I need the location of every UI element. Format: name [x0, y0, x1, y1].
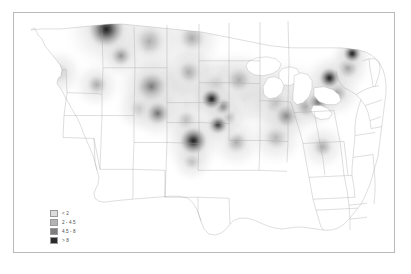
density-hotspot-core	[178, 126, 208, 156]
legend-swatch-class-4	[50, 237, 58, 244]
density-hotspot-core	[318, 67, 341, 90]
legend-label-class-3: 4.5 - 8	[62, 228, 76, 235]
density-hotspot-core	[311, 135, 334, 158]
legend-item: 4.5 - 8	[50, 227, 108, 236]
legend-swatch-class-3	[50, 228, 58, 235]
legend-label-class-1: < 2	[62, 210, 69, 217]
legend-swatch-class-2	[50, 219, 58, 226]
map-panel: < 2 2 - 4.5 4.5 - 8 > 8	[13, 12, 395, 253]
legend-swatch-class-1	[50, 210, 58, 217]
density-hotspot-core	[200, 88, 223, 111]
legend-item: 2 - 4.5	[50, 218, 108, 227]
legend-item: < 2	[50, 209, 108, 218]
figure-container: < 2 2 - 4.5 4.5 - 8 > 8	[0, 0, 411, 274]
legend-label-class-4: > 8	[62, 237, 69, 244]
density-hotspot-core	[85, 73, 108, 96]
legend-item: > 8	[50, 236, 108, 245]
legend-label-class-2: 2 - 4.5	[62, 219, 76, 226]
map-legend: < 2 2 - 4.5 4.5 - 8 > 8	[50, 209, 108, 245]
